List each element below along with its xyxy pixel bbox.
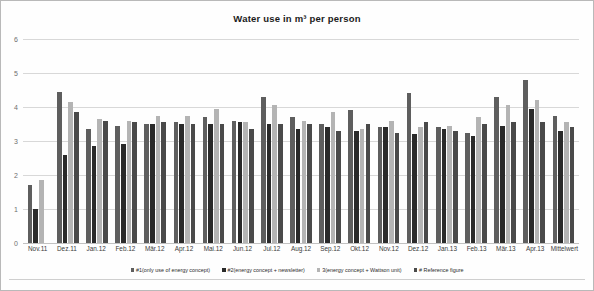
bar bbox=[63, 155, 68, 243]
x-axis-tick-label: Dez.12 bbox=[403, 245, 432, 257]
bar bbox=[115, 126, 120, 243]
bar bbox=[74, 112, 79, 243]
bar bbox=[174, 122, 179, 243]
y-axis-tick-label: 3 bbox=[14, 138, 18, 145]
bar bbox=[354, 131, 359, 243]
legend-item[interactable]: #2(energy concept + newsletter) bbox=[222, 267, 305, 273]
x-axis-tick-label: Jun.12 bbox=[228, 245, 257, 257]
legend-item[interactable]: #1(only use of energy concept) bbox=[131, 267, 211, 273]
plot-area: 0123456 bbox=[23, 39, 579, 243]
bar bbox=[494, 97, 499, 243]
bar-group bbox=[82, 39, 111, 243]
bar bbox=[389, 121, 394, 243]
bar bbox=[383, 127, 388, 243]
bar bbox=[39, 180, 44, 243]
bar bbox=[506, 105, 511, 243]
bar-group bbox=[316, 39, 345, 243]
bar-group bbox=[374, 39, 403, 243]
footer-divider bbox=[9, 279, 585, 280]
x-axis-tick-label: Jul.12 bbox=[257, 245, 286, 257]
bar-group bbox=[170, 39, 199, 243]
bar bbox=[366, 124, 371, 243]
bar-group bbox=[549, 39, 578, 243]
x-axis-tick-label: Mai.12 bbox=[199, 245, 228, 257]
bar bbox=[465, 133, 470, 244]
chart-legend: #1(only use of energy concept)#2(energy … bbox=[1, 267, 593, 273]
bar bbox=[412, 134, 417, 243]
x-axis-tick-label: Nov.12 bbox=[374, 245, 403, 257]
bar bbox=[208, 124, 213, 243]
bar bbox=[144, 124, 149, 243]
bar bbox=[424, 122, 429, 243]
bar bbox=[57, 92, 62, 243]
bar bbox=[179, 124, 184, 243]
bar-group bbox=[228, 39, 257, 243]
bar bbox=[453, 131, 458, 243]
x-axis-tick-label: Mittelwert bbox=[550, 245, 579, 257]
bar bbox=[290, 117, 295, 243]
x-axis-tick-label: Okt.12 bbox=[345, 245, 374, 257]
legend-item[interactable]: # Reference figure bbox=[414, 267, 464, 273]
x-axis-tick-label: Aug.12 bbox=[286, 245, 315, 257]
bar bbox=[68, 102, 73, 243]
bar bbox=[161, 122, 166, 243]
x-axis-tick-label: Mär.12 bbox=[140, 245, 169, 257]
bar bbox=[28, 185, 33, 243]
legend-swatch-icon bbox=[222, 268, 226, 272]
gridline-0: 0 bbox=[23, 243, 579, 244]
bar bbox=[570, 127, 575, 243]
bar bbox=[203, 117, 208, 243]
x-axis-tick-label: Apr.12 bbox=[169, 245, 198, 257]
bar bbox=[278, 124, 283, 243]
y-axis-tick-label: 4 bbox=[14, 104, 18, 111]
bar bbox=[436, 127, 441, 243]
bar bbox=[558, 131, 563, 243]
bar bbox=[407, 93, 412, 243]
legend-label: #2(energy concept + newsletter) bbox=[228, 267, 305, 273]
bar bbox=[336, 131, 341, 243]
bar bbox=[447, 126, 452, 243]
bar bbox=[296, 129, 301, 243]
bar bbox=[191, 124, 196, 243]
bar bbox=[500, 126, 505, 243]
bar bbox=[535, 100, 540, 243]
bar bbox=[319, 124, 324, 243]
x-axis-tick-label: Dez.11 bbox=[52, 245, 81, 257]
bar bbox=[121, 144, 126, 243]
bar bbox=[482, 124, 487, 243]
bar bbox=[307, 124, 312, 243]
bar bbox=[33, 209, 38, 243]
legend-item[interactable]: 3(energy concept + Wattson unit) bbox=[317, 267, 402, 273]
bar bbox=[442, 129, 447, 243]
bar bbox=[97, 119, 102, 243]
bar bbox=[348, 110, 353, 243]
bar bbox=[232, 121, 237, 243]
bar bbox=[156, 116, 161, 244]
x-axis-labels: Nov.11Dez.11Jan.12Feb.12Mär.12Apr.12Mai.… bbox=[23, 245, 579, 257]
y-axis-tick-label: 0 bbox=[14, 240, 18, 247]
bar-group bbox=[432, 39, 461, 243]
bar bbox=[86, 129, 91, 243]
bar bbox=[302, 121, 307, 243]
bar bbox=[325, 127, 330, 243]
y-axis-tick-label: 2 bbox=[14, 172, 18, 179]
bar bbox=[395, 133, 400, 244]
bar bbox=[132, 122, 137, 243]
x-axis-tick-label: Sep.12 bbox=[316, 245, 345, 257]
bar-group bbox=[53, 39, 82, 243]
bar bbox=[564, 122, 569, 243]
legend-label: # Reference figure bbox=[419, 267, 463, 273]
bar-group bbox=[257, 39, 286, 243]
bar bbox=[150, 124, 155, 243]
legend-swatch-icon bbox=[317, 268, 321, 272]
bar-group bbox=[461, 39, 490, 243]
bar bbox=[471, 136, 476, 243]
bar-group bbox=[141, 39, 170, 243]
bar bbox=[360, 129, 365, 243]
bar bbox=[378, 127, 383, 243]
bar-groups bbox=[23, 39, 579, 243]
chart-title: Water use in m³ per person bbox=[1, 13, 593, 24]
legend-swatch-icon bbox=[414, 268, 418, 272]
bar bbox=[220, 124, 225, 243]
y-axis-tick-label: 1 bbox=[14, 206, 18, 213]
